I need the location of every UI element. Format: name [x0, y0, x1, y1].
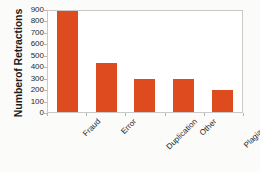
x-axis-tick-mark [86, 113, 87, 116]
y-axis-tick-label: 800 [20, 17, 44, 25]
bar-plagiarism[interactable] [212, 90, 233, 112]
x-axis-label-other: Other [198, 117, 219, 138]
y-axis-tick-label: 100 [20, 98, 44, 106]
bars-layer [48, 11, 242, 112]
bar-slot [126, 11, 165, 112]
bar-slot [203, 11, 242, 112]
x-axis-label-plagiarism: Plagiarism [242, 117, 260, 150]
y-axis-tick-label: 600 [20, 40, 44, 48]
bar-other[interactable] [173, 79, 194, 112]
x-axis-tick-mark [125, 113, 126, 116]
y-axis-tick-label: 400 [20, 63, 44, 71]
y-axis-tick-label: 200 [20, 86, 44, 94]
x-axis-label-error: Error [119, 117, 138, 136]
bar-slot [87, 11, 126, 112]
y-axis-tick-label: 0 [20, 109, 44, 117]
bar-duplication[interactable] [134, 79, 155, 112]
x-axis-tick-mark [204, 113, 205, 116]
x-axis-tick-mark [47, 113, 48, 116]
bar-fraud[interactable] [57, 11, 78, 112]
bar-error[interactable] [96, 63, 117, 112]
bar-slot [48, 11, 87, 112]
bar-slot [164, 11, 203, 112]
y-axis-tick-label: 500 [20, 52, 44, 60]
bar-chart-figure: Numberof Retractions 0100200300400500600… [0, 0, 260, 172]
x-axis-label-fraud: Fraud [81, 117, 102, 138]
plot-area [47, 10, 243, 113]
y-axis-tick-label: 700 [20, 29, 44, 37]
x-axis-label-duplication: Duplication [165, 117, 199, 151]
y-axis-tick-label: 300 [20, 75, 44, 83]
x-axis-tick-mark [165, 113, 166, 116]
y-axis-tick-labels: 0100200300400500600700800900 [20, 10, 44, 113]
x-axis-tick-mark [243, 113, 244, 116]
y-axis-tick-label: 900 [20, 6, 44, 14]
x-axis-tick-labels: FraudErrorDuplicationOtherPlagiarism [47, 117, 243, 172]
